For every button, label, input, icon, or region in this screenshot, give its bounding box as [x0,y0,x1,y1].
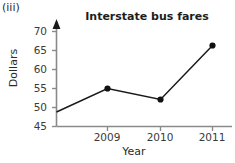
y-axis-arrow-icon [53,19,61,29]
data-line-series-1 [57,46,213,113]
x-tick-label-2009: 2009 [87,132,127,143]
data-point-2009 [104,85,110,91]
y-tick-label-55: 55 [27,83,47,94]
x-axis-title: Year [104,146,164,158]
chart-figure: (iii) Interstate bus fares 70 65 60 55 5… [0,0,235,163]
y-tick-label-65: 65 [27,45,47,56]
y-tick-label-70: 70 [27,26,47,37]
y-tick-label-45: 45 [27,121,47,132]
data-point-2010 [157,96,163,102]
y-tick-label-50: 50 [27,102,47,113]
x-tick-label-2010: 2010 [140,132,180,143]
y-tick-label-60: 60 [27,64,47,75]
x-tick-label-2011: 2011 [192,132,232,143]
data-point-2011 [209,42,215,48]
y-axis-title: Dollars [8,45,20,91]
